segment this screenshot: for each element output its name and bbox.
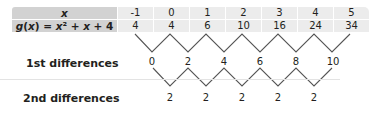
first-difference-value: 4 — [214, 56, 234, 68]
second-difference-value: 2 — [160, 92, 180, 104]
divider — [0, 79, 340, 80]
first-difference-value: 2 — [178, 56, 198, 68]
second-difference-value: 2 — [232, 92, 252, 104]
second-difference-value: 2 — [304, 92, 324, 104]
first-difference-value: 0 — [142, 56, 162, 68]
first-difference-value: 10 — [323, 56, 343, 68]
first-difference-value: 8 — [286, 56, 306, 68]
first-differences-label: 1st differences — [26, 58, 119, 70]
second-differences-label: 2nd differences — [23, 93, 119, 105]
second-difference-value: 2 — [268, 92, 288, 104]
first-difference-value: 6 — [250, 56, 270, 68]
second-difference-value: 2 — [196, 92, 216, 104]
